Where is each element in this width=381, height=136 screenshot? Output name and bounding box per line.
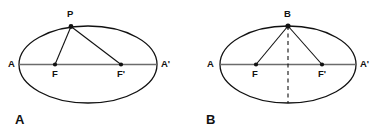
ellipse-figure: A A' F F' P A A A' F F' B B bbox=[0, 0, 381, 136]
panel-label-b: B bbox=[206, 112, 215, 127]
label-Fprime-b: F' bbox=[318, 68, 326, 79]
point-dot-Fprime-a bbox=[119, 62, 123, 66]
label-B: B bbox=[284, 8, 291, 19]
figure-canvas: A A' F F' P A A A' F F' B B bbox=[0, 0, 381, 136]
point-dot-F-b bbox=[254, 62, 258, 66]
point-dot-F-a bbox=[53, 62, 57, 66]
segment-P-Fprime bbox=[71, 27, 121, 65]
panel-a: A A' F F' P A bbox=[8, 8, 170, 127]
label-A-b: A bbox=[207, 58, 214, 69]
label-F-b: F bbox=[252, 68, 258, 79]
label-A-a: A bbox=[8, 58, 15, 69]
label-P: P bbox=[67, 8, 74, 19]
point-dot-P bbox=[69, 24, 74, 29]
label-Fprime-a: F' bbox=[117, 68, 125, 79]
point-dot-Fprime-b bbox=[320, 62, 324, 66]
label-Aprime-a: A' bbox=[161, 58, 170, 69]
segment-B-Fprime bbox=[288, 26, 322, 65]
panel-b: A A' F F' B B bbox=[206, 8, 369, 127]
point-dot-B bbox=[285, 23, 290, 28]
panel-label-a: A bbox=[15, 112, 25, 127]
segment-P-F bbox=[55, 27, 71, 65]
label-Aprime-b: A' bbox=[360, 58, 369, 69]
segment-B-F bbox=[256, 26, 288, 65]
label-F-a: F bbox=[52, 68, 58, 79]
